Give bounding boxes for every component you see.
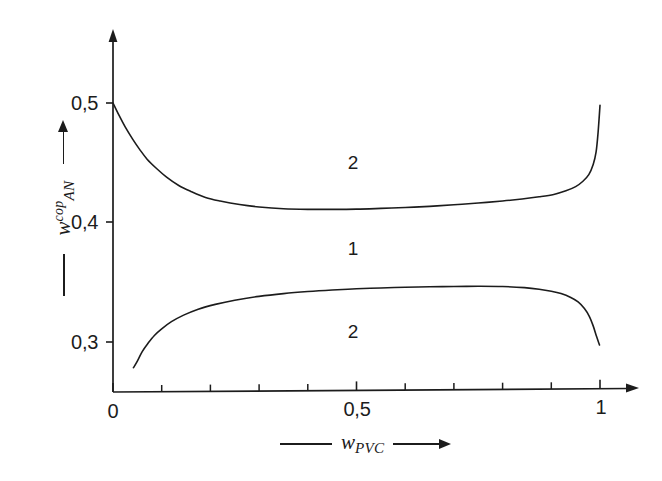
region-label-middle-1: 1 — [336, 238, 370, 260]
x-axis-arrow-icon — [393, 438, 451, 450]
y-axis-label-base: w — [50, 221, 74, 235]
x-axis-caption: wPVC — [280, 432, 451, 456]
y-axis-label-superscript: cop — [50, 200, 65, 221]
x-tick-label-0: 0 — [93, 400, 133, 423]
region-label-upper-2: 2 — [336, 152, 370, 174]
y-tick-label-0.3: 0,3 — [48, 331, 98, 354]
y-axis-label-subscript: AN — [60, 181, 76, 201]
y-axis-label-symbol: wcopAN — [51, 181, 76, 236]
y-axis-label: wcopAN — [32, 181, 96, 236]
x-tick-label-1: 1 — [581, 396, 621, 419]
y-axis-arrow-icon — [57, 120, 71, 164]
x-axis-caption-rule — [280, 443, 332, 444]
x-axis-label-base: w — [341, 430, 355, 454]
x-axis-label: wPVC — [341, 432, 384, 456]
y-axis-caption-rule — [63, 254, 64, 296]
y-axis-caption: wcopAN — [34, 120, 94, 310]
y-tick-label-0.5: 0,5 — [48, 92, 98, 115]
x-axis-label-subscript: PVC — [355, 440, 384, 456]
region-label-lower-2: 2 — [336, 321, 370, 343]
x-tick-label-0.5: 0,5 — [333, 398, 381, 421]
